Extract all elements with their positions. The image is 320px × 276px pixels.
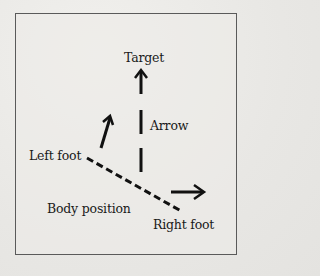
right-foot-label: Right foot [153, 217, 214, 232]
target-arrow-icon [135, 70, 147, 94]
arrow-label: Arrow [150, 118, 188, 133]
left-foot-direction-arrow-icon [101, 116, 113, 148]
right-foot-direction-arrow-icon [171, 185, 204, 199]
foot-alignment-drawing [0, 0, 252, 276]
left-foot-label: Left foot [29, 148, 81, 163]
body-position-label: Body position [47, 201, 131, 216]
target-label: Target [124, 50, 164, 65]
